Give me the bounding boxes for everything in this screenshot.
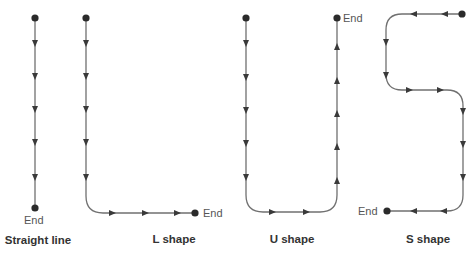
straight-line-caption: Straight line [5, 235, 71, 247]
start-dot-icon [242, 14, 249, 21]
l-shape-path [82, 14, 198, 216]
arrow-down-icon [460, 174, 466, 181]
straight-line-end-label: End [24, 215, 44, 226]
start-dot-icon [31, 14, 38, 21]
start-dot-icon [82, 14, 89, 21]
arrow-down-icon [32, 139, 38, 146]
end-dot-icon [31, 204, 38, 211]
arrow-right-icon [406, 87, 413, 93]
l-shape-caption: L shape [152, 234, 195, 246]
arrow-down-icon [460, 108, 466, 115]
arrow-down-icon [32, 73, 38, 80]
arrow-up-icon [334, 177, 340, 184]
arrow-right-icon [303, 209, 310, 215]
l-shape-end-label: End [203, 208, 223, 219]
arrow-left-icon [440, 208, 447, 214]
arrow-right-icon [437, 87, 444, 93]
arrow-right-icon [142, 210, 149, 216]
arrow-down-icon [243, 74, 249, 81]
arrow-down-icon [383, 72, 389, 79]
arrow-down-icon [32, 40, 38, 47]
arrow-right-icon [269, 209, 276, 215]
arrow-down-icon [243, 174, 249, 181]
arrow-up-icon [334, 77, 340, 84]
end-dot-icon [383, 207, 390, 214]
arrow-down-icon [83, 106, 89, 113]
s-shape-path [383, 10, 466, 214]
u-shape-path [242, 14, 340, 215]
arrow-right-icon [109, 210, 116, 216]
u-shape-end-label: End [343, 13, 363, 24]
start-dot-icon [458, 10, 465, 17]
straight-line-path [31, 14, 38, 211]
arrow-down-icon [383, 39, 389, 46]
arrow-right-icon [174, 210, 181, 216]
s-shape-end-label: End [358, 206, 378, 217]
arrow-left-icon [410, 208, 417, 214]
arrow-left-icon [441, 11, 448, 17]
arrow-up-icon [334, 110, 340, 117]
s-shape-caption: S shape [406, 234, 450, 246]
u-shape-caption: U shape [270, 234, 315, 246]
end-dot-icon [191, 209, 198, 216]
arrow-down-icon [243, 107, 249, 114]
arrow-down-icon [83, 40, 89, 47]
arrow-up-icon [334, 143, 340, 150]
path-shapes-diagram [0, 0, 471, 257]
arrow-down-icon [32, 174, 38, 181]
arrow-down-icon [83, 73, 89, 80]
arrow-down-icon [243, 40, 249, 47]
arrow-down-icon [460, 141, 466, 148]
arrow-down-icon [83, 174, 89, 181]
arrow-down-icon [32, 106, 38, 113]
end-dot-icon [333, 14, 340, 21]
arrow-down-icon [243, 140, 249, 147]
arrow-left-icon [410, 11, 417, 17]
arrow-up-icon [334, 43, 340, 50]
arrow-down-icon [83, 139, 89, 146]
